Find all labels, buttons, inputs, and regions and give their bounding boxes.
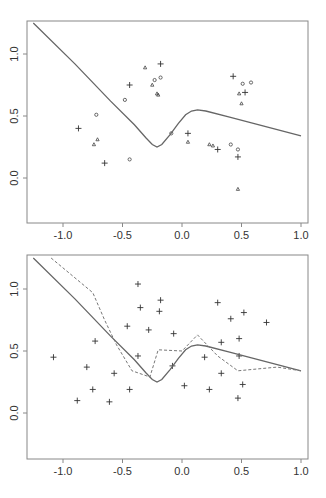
triangle-point xyxy=(92,143,95,146)
x-tick-label: 0.0 xyxy=(174,465,189,477)
plus-point xyxy=(84,364,90,370)
triangle-point xyxy=(151,83,154,86)
fitted-curve xyxy=(33,258,301,382)
circle-point xyxy=(153,78,156,81)
plus-point xyxy=(218,339,224,345)
circle-point xyxy=(128,158,131,161)
plus-point xyxy=(90,386,96,392)
plus-point xyxy=(215,146,221,152)
x-tick-label: 0.5 xyxy=(234,229,249,241)
y-tick-label: 1.0 xyxy=(8,281,20,296)
bottom-panel: -1.0-0.50.00.51.00.00.51.0 xyxy=(8,255,309,477)
plus-point xyxy=(242,89,248,95)
x-tick-label: 0.0 xyxy=(174,229,189,241)
plus-point xyxy=(263,319,269,325)
plus-point xyxy=(235,154,241,160)
plus-point xyxy=(158,297,164,303)
plus-point xyxy=(241,310,247,316)
y-tick-label: 0.5 xyxy=(8,108,20,123)
plus-point xyxy=(111,370,117,376)
plus-point xyxy=(215,300,221,306)
triangle-point xyxy=(186,140,189,143)
triangle-point xyxy=(211,144,214,147)
y-tick-label: 1.0 xyxy=(8,46,20,61)
dashed-curve xyxy=(51,258,301,377)
x-tick-label: -0.5 xyxy=(113,465,132,477)
plus-point xyxy=(235,395,241,401)
x-tick-label: 1.0 xyxy=(293,465,308,477)
plus-point xyxy=(156,308,162,314)
x-tick-label: -1.0 xyxy=(54,465,73,477)
plus-point xyxy=(230,73,236,79)
triangle-point xyxy=(144,66,147,69)
circle-point xyxy=(95,113,98,116)
plus-point xyxy=(127,82,133,88)
triangle-point xyxy=(238,92,241,95)
circle-point xyxy=(229,143,232,146)
plus-point xyxy=(240,381,246,387)
fitted-curve xyxy=(33,23,301,147)
triangle-point xyxy=(240,102,243,105)
plus-point xyxy=(74,398,80,404)
plus-point xyxy=(218,370,224,376)
triangle-point xyxy=(236,187,239,190)
x-tick-label: -0.5 xyxy=(113,229,132,241)
plus-point xyxy=(171,331,177,337)
plus-point xyxy=(92,338,98,344)
y-tick-label: 0.0 xyxy=(8,405,20,420)
x-tick-label: 1.0 xyxy=(293,229,308,241)
plus-point xyxy=(135,281,141,287)
plus-point xyxy=(127,386,133,392)
plus-point xyxy=(135,353,141,359)
plus-point xyxy=(228,316,234,322)
plus-point xyxy=(158,61,164,67)
plus-point xyxy=(185,130,191,136)
x-tick-label: -1.0 xyxy=(54,229,73,241)
circle-point xyxy=(241,82,244,85)
plus-point xyxy=(181,383,187,389)
plus-point xyxy=(202,354,208,360)
plus-point xyxy=(137,305,143,311)
plus-point xyxy=(50,354,56,360)
plot-frame xyxy=(27,21,308,223)
circle-point xyxy=(236,148,239,151)
plus-point xyxy=(102,160,108,166)
chart-figure: -1.0-0.50.00.51.00.00.51.0 -1.0-0.50.00.… xyxy=(0,0,326,498)
top-panel: -1.0-0.50.00.51.00.00.51.0 xyxy=(8,21,309,241)
y-tick-label: 0.5 xyxy=(8,343,20,358)
x-tick-label: 0.5 xyxy=(234,465,249,477)
y-tick-label: 0.0 xyxy=(8,170,20,185)
circle-point xyxy=(123,98,126,101)
plus-point xyxy=(206,386,212,392)
circle-point xyxy=(249,81,252,84)
plus-point xyxy=(146,327,152,333)
plus-point xyxy=(75,125,81,131)
circle-point xyxy=(159,76,162,79)
plus-point xyxy=(124,323,130,329)
plus-point xyxy=(106,399,112,405)
triangle-point xyxy=(208,143,211,146)
triangle-point xyxy=(96,138,99,141)
plus-point xyxy=(236,336,242,342)
plot-frame xyxy=(27,255,308,459)
